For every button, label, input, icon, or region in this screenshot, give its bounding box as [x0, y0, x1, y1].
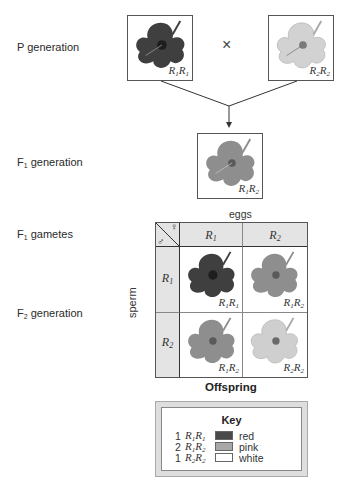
key-title: Key [162, 414, 301, 426]
f1-generation-label: F1 generation [17, 156, 83, 169]
label-prefix: F [17, 156, 24, 168]
offspring-cell-r1r2-bottom: R1R2 [180, 313, 243, 377]
genotype-label: R2R2 [310, 64, 330, 78]
header-text: R1 [180, 228, 242, 243]
key-inner: Key 1 R1R1 red 2 R1R2 pink 1 R2R2 white [161, 407, 302, 471]
pink-flower-icon [184, 316, 240, 366]
genotype-label: R2R2 [284, 361, 304, 375]
label-prefix: F [17, 307, 24, 319]
red-flower-icon [184, 250, 240, 300]
genotype-label: R1R2 [284, 296, 304, 310]
f2-generation-label: F2 generation [17, 307, 83, 320]
key-genotype: R2R2 [185, 451, 205, 465]
parent-red-flower-box: R1R1 [127, 15, 193, 81]
f1-gametes-label: F1 gametes [17, 228, 73, 241]
white-swatch [215, 453, 233, 462]
genotype-label: R1R2 [219, 361, 239, 375]
header-text: R2 [243, 228, 307, 243]
red-swatch [215, 431, 233, 440]
f1-pink-flower-box: R1R2 [197, 133, 263, 199]
label-suffix: generation [28, 156, 83, 168]
offspring-cell-r1r1: R1R1 [180, 247, 243, 313]
male-symbol-icon: ♂ [157, 236, 165, 247]
key-count: 1 [175, 452, 181, 464]
pink-swatch [215, 442, 233, 451]
row-header-r1: R1 [156, 247, 180, 313]
column-header-r2: R2 [243, 223, 307, 247]
genotype-label: R1R1 [219, 296, 239, 310]
row-header-r2: R2 [156, 313, 180, 377]
offspring-caption: Offspring [205, 381, 257, 393]
key-box: Key 1 R1R1 red 2 R1R2 pink 1 R2R2 white [155, 401, 308, 477]
eggs-label: eggs [229, 208, 252, 220]
label-suffix: gametes [28, 228, 73, 240]
punnett-square: ♀ ♂ R1 R2 R1 R2 R1R1 R1R2 [155, 222, 308, 378]
genotype-label: R1R1 [169, 64, 189, 78]
header-text: R2 [156, 335, 179, 350]
sperm-label: sperm [126, 287, 138, 318]
parent-white-flower-box: R2R2 [268, 15, 334, 81]
key-color-label: white [239, 452, 264, 464]
header-text: R1 [156, 271, 179, 286]
column-header-r1: R1 [180, 223, 243, 247]
white-flower-icon [247, 316, 303, 366]
label-suffix: generation [28, 307, 83, 319]
female-symbol-icon: ♀ [171, 221, 179, 232]
offspring-cell-r2r2: R2R2 [243, 313, 307, 377]
pink-flower-icon [247, 250, 303, 300]
key-row-white: 1 R2R2 white [175, 452, 300, 464]
corner-cell: ♀ ♂ [156, 223, 180, 247]
label-prefix: F [17, 228, 24, 240]
offspring-cell-r1r2-top: R1R2 [243, 247, 307, 313]
genotype-label: R1R2 [239, 182, 259, 196]
cross-symbol: × [222, 36, 231, 54]
